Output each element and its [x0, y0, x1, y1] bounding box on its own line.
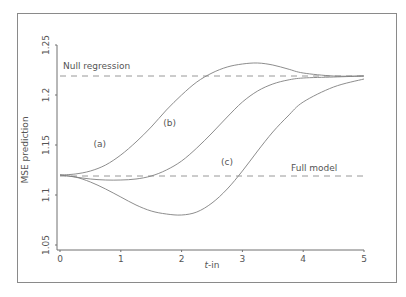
curve-a	[60, 63, 364, 175]
annotation-label: (b)	[163, 118, 176, 128]
x-tick-label: 1	[118, 254, 124, 264]
annotation-label: (a)	[93, 139, 106, 149]
line-chart: 1.051.11.151.21.25012345 Null regression…	[0, 0, 406, 297]
x-axis-label-rest: -in	[208, 260, 219, 270]
x-tick-label: 5	[361, 254, 367, 264]
x-tick-label: 3	[240, 254, 246, 264]
annotation-label: Null regression	[63, 61, 130, 71]
x-tick-label: 2	[179, 254, 185, 264]
reference-lines	[60, 76, 364, 176]
x-tick-label: 4	[300, 254, 306, 264]
annotation-label: Full model	[291, 163, 337, 173]
y-tick-label: 1.2	[41, 88, 51, 102]
y-tick-label: 1.15	[41, 135, 51, 155]
x-tick-label: 0	[57, 254, 63, 264]
y-tick-label: 1.25	[41, 35, 51, 55]
y-tick-label: 1.1	[41, 188, 51, 202]
y-tick-label: 1.05	[41, 235, 51, 255]
x-axis-label: t-in	[205, 260, 220, 270]
annotations: Null regressionFull model(a)(b)(c)	[63, 61, 337, 173]
y-axis-label: MSE prediction	[20, 116, 30, 183]
annotation-label: (c)	[221, 157, 233, 167]
